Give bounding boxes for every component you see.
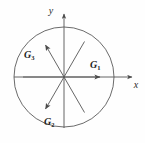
vector-label-g1: G1 bbox=[90, 59, 100, 71]
y-axis-label: y bbox=[48, 5, 54, 16]
vector-label-g1-subscript: 1 bbox=[97, 64, 100, 71]
vector-label-g3-subscript: 3 bbox=[31, 54, 35, 61]
vector-g2-arrow bbox=[46, 77, 65, 109]
figure-container: y x G1 G2 G3 bbox=[0, 0, 145, 143]
vector-label-g3: G3 bbox=[24, 49, 35, 61]
vector-g3-arrow bbox=[46, 45, 65, 77]
vector-label-g2: G2 bbox=[44, 116, 54, 128]
plain-ray-300 bbox=[64, 77, 85, 113]
plain-ray-60 bbox=[64, 42, 85, 78]
vector-label-g2-subscript: 2 bbox=[51, 121, 54, 128]
x-axis-label: x bbox=[133, 79, 139, 90]
vector-diagram-svg: y x G1 G2 G3 bbox=[0, 0, 145, 143]
